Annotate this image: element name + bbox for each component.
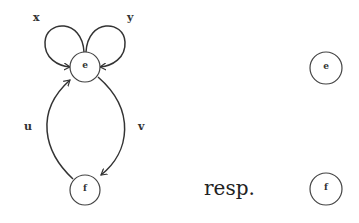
node-label-e-left: e bbox=[75, 60, 95, 70]
edge-label-v: v bbox=[138, 120, 144, 133]
node-label-f-left: f bbox=[75, 183, 95, 193]
node-label-f-right: f bbox=[316, 182, 336, 192]
edge-v bbox=[98, 77, 125, 175]
graph-diagram bbox=[0, 0, 359, 223]
edge-label-x: x bbox=[33, 11, 40, 24]
edge-label-u: u bbox=[24, 120, 32, 133]
edge-label-y: y bbox=[127, 11, 133, 24]
edge-u bbox=[47, 80, 73, 179]
node-label-e-right: e bbox=[316, 61, 336, 71]
separator-text: resp. bbox=[204, 176, 255, 200]
